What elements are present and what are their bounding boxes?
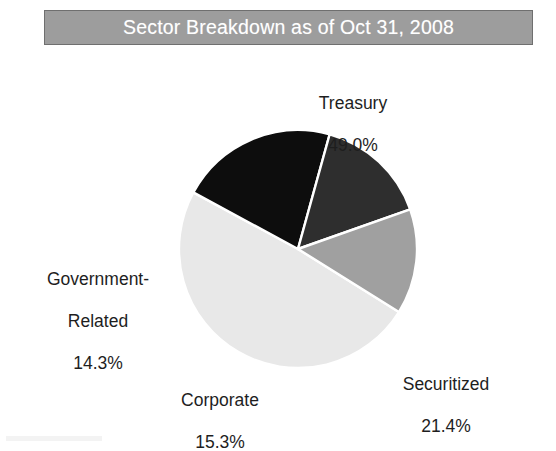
pie-label-government-related-name-line2: Related bbox=[18, 311, 178, 332]
pie-label-treasury-name: Treasury bbox=[283, 93, 423, 114]
pie-label-corporate-value: 15.3% bbox=[148, 432, 292, 451]
pie-label-government-related-name-line1: Government- bbox=[18, 269, 178, 290]
pie-label-securitized: Securitized 21.4% bbox=[372, 353, 520, 451]
pie-label-securitized-value: 21.4% bbox=[372, 416, 520, 437]
pie-label-government-related: Government- Related 14.3% bbox=[18, 248, 178, 395]
chart-title-banner: Sector Breakdown as of Oct 31, 2008 bbox=[44, 10, 533, 45]
pie-label-treasury: Treasury 49.0% bbox=[283, 72, 423, 177]
chart-title-text: Sector Breakdown as of Oct 31, 2008 bbox=[123, 18, 454, 38]
pie-label-government-related-value: 14.3% bbox=[18, 353, 178, 374]
sector-breakdown-figure: Sector Breakdown as of Oct 31, 2008 Trea… bbox=[0, 0, 556, 451]
scan-artifact bbox=[6, 436, 102, 441]
pie-label-treasury-value: 49.0% bbox=[283, 135, 423, 156]
pie-label-securitized-name: Securitized bbox=[372, 374, 520, 395]
